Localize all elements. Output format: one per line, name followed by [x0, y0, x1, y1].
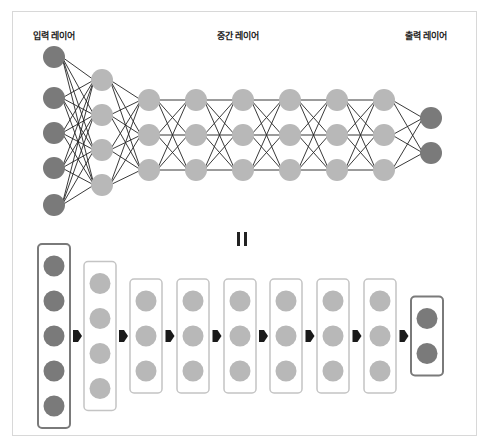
arrow-icon: [306, 330, 315, 342]
hidden-node: [185, 89, 207, 111]
hidden-node: [276, 361, 297, 382]
hidden-node: [185, 124, 207, 146]
arrow-icon: [166, 330, 175, 342]
hidden-node: [276, 326, 297, 347]
hidden-node: [326, 124, 348, 146]
hidden-node: [373, 159, 395, 181]
hidden-node: [90, 378, 111, 399]
hidden-node: [136, 326, 157, 347]
hidden-node: [279, 89, 301, 111]
hidden-node: [232, 124, 254, 146]
output-node: [420, 142, 442, 164]
hidden-node: [370, 361, 391, 382]
hidden-node: [373, 124, 395, 146]
output-node: [417, 308, 438, 329]
connection-edge: [62, 80, 94, 98]
hidden-node: [279, 124, 301, 146]
hidden-node: [91, 69, 113, 91]
hidden-node: [91, 174, 113, 196]
hidden-node: [136, 361, 157, 382]
hidden-node: [185, 159, 207, 181]
hidden-node: [183, 361, 204, 382]
hidden-node: [370, 326, 391, 347]
input-node: [43, 122, 65, 144]
hidden-node: [138, 89, 160, 111]
hidden-node: [326, 89, 348, 111]
connection-edge: [110, 80, 141, 100]
equals-bar: [244, 232, 247, 246]
arrow-icon: [353, 330, 362, 342]
arrow-icon: [119, 330, 128, 342]
connection-edge: [392, 100, 423, 118]
hidden-node: [232, 159, 254, 181]
input-node: [43, 194, 65, 216]
arrow-icon: [259, 330, 268, 342]
hidden-node: [370, 291, 391, 312]
hidden-node: [230, 291, 251, 312]
hidden-node: [326, 159, 348, 181]
neural-network-diagram: [0, 0, 489, 447]
hidden-node: [183, 291, 204, 312]
hidden-node: [138, 159, 160, 181]
hidden-node: [373, 89, 395, 111]
hidden-node: [90, 343, 111, 364]
hidden-node: [138, 124, 160, 146]
input-node: [43, 46, 65, 68]
input-node: [43, 87, 65, 109]
hidden-node: [90, 273, 111, 294]
output-node: [417, 343, 438, 364]
input-node: [44, 291, 65, 312]
equals-bar: [237, 232, 240, 246]
input-node: [44, 396, 65, 417]
output-node: [420, 107, 442, 129]
hidden-node: [90, 308, 111, 329]
hidden-node: [230, 326, 251, 347]
hidden-node: [279, 159, 301, 181]
hidden-node: [323, 291, 344, 312]
hidden-node: [183, 326, 204, 347]
connection-edge: [62, 80, 94, 168]
hidden-node: [230, 361, 251, 382]
hidden-node: [91, 139, 113, 161]
arrow-icon: [213, 330, 222, 342]
input-node: [44, 361, 65, 382]
hidden-node: [91, 104, 113, 126]
arrow-icon: [400, 330, 409, 342]
hidden-node: [276, 291, 297, 312]
input-node: [43, 157, 65, 179]
arrow-icon: [73, 330, 82, 342]
hidden-node: [136, 291, 157, 312]
hidden-node: [323, 361, 344, 382]
input-node: [44, 256, 65, 277]
hidden-node: [323, 326, 344, 347]
hidden-node: [232, 89, 254, 111]
input-node: [44, 326, 65, 347]
